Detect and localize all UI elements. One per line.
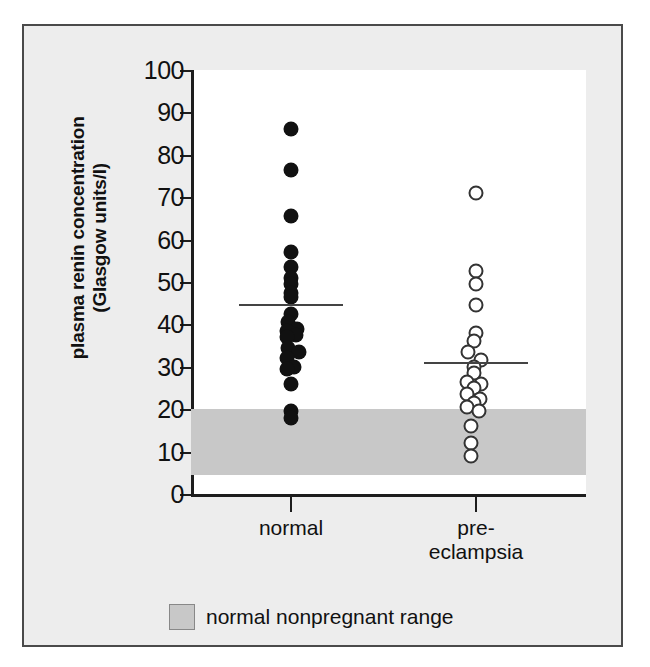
data-point (284, 289, 299, 304)
y-axis-tick-label: 40 (157, 310, 184, 339)
data-point (284, 122, 299, 137)
x-axis-tick (475, 497, 477, 512)
x-axis-category-label: pre-eclampsia (429, 516, 524, 564)
data-point (284, 376, 299, 391)
y-axis-tick-label: 80 (157, 140, 184, 169)
normal-nonpregnant-range-band (191, 409, 586, 475)
data-point (284, 162, 299, 177)
mean-line (424, 362, 528, 364)
y-axis-tick-label: 60 (157, 225, 184, 254)
data-point (469, 298, 484, 313)
data-point (469, 185, 484, 200)
y-axis-tick-label: 30 (157, 352, 184, 381)
y-axis-title: plasma renin concentration (Glasgow unit… (67, 23, 111, 453)
legend-swatch-band (169, 604, 195, 630)
data-point (472, 404, 487, 419)
plot-region: 0102030405060708090100normalpre-eclampsi… (191, 70, 586, 518)
y-axis-tick-label: 20 (157, 395, 184, 424)
x-axis-category-label-line: normal (259, 516, 323, 540)
y-axis-title-line-2: (Glasgow units/l) (89, 23, 111, 453)
chart-frame: plasma renin concentration (Glasgow unit… (22, 24, 623, 647)
figure-panel: plasma renin concentration (Glasgow unit… (0, 0, 650, 667)
y-axis-tick-label: 90 (157, 98, 184, 127)
data-point (284, 209, 299, 224)
data-point (464, 448, 479, 463)
x-axis-tick (290, 497, 292, 512)
y-axis-tick-label: 70 (157, 183, 184, 212)
y-axis-tick-label: 0 (171, 480, 184, 509)
data-point (469, 277, 484, 292)
legend-label: normal nonpregnant range (206, 605, 454, 629)
legend: normal nonpregnant range (169, 604, 454, 630)
y-axis-title-line-1: plasma renin concentration (67, 23, 89, 453)
data-point (464, 419, 479, 434)
data-point (284, 410, 299, 425)
x-axis-line (191, 494, 586, 497)
mean-line (239, 304, 343, 306)
y-axis-tick-label: 50 (157, 268, 184, 297)
data-point (284, 245, 299, 260)
x-axis-category-label-line: pre- (429, 516, 524, 540)
x-axis-category-label-line: eclampsia (429, 540, 524, 564)
y-axis-tick-label: 10 (157, 437, 184, 466)
x-axis-category-label: normal (259, 516, 323, 540)
y-axis-tick-label: 100 (144, 56, 184, 85)
data-point (280, 361, 295, 376)
